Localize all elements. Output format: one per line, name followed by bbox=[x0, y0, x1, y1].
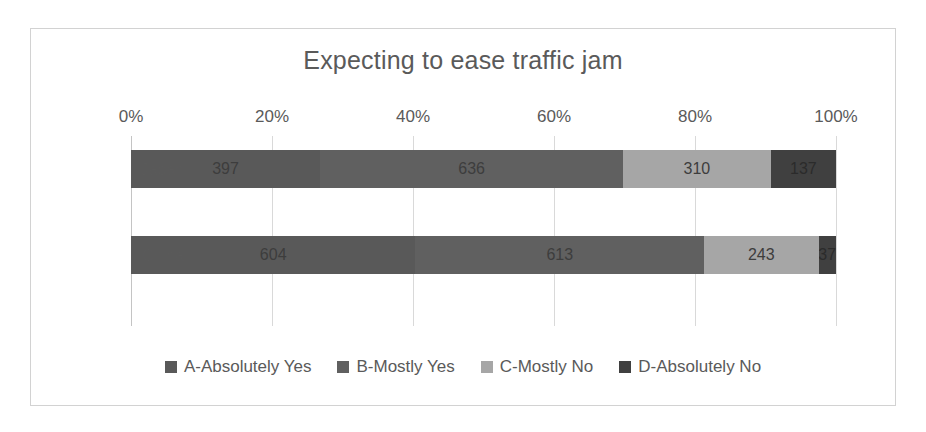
legend-swatch-icon bbox=[165, 361, 177, 373]
chart-frame: Expecting to ease traffic jam 0%20%40%60… bbox=[30, 28, 896, 406]
x-tick-label: 20% bbox=[255, 107, 289, 127]
category-label-japan: Japan bbox=[140, 161, 184, 179]
bar-segment-value: 243 bbox=[748, 247, 775, 263]
bar-segment-value: 37 bbox=[819, 247, 836, 263]
legend-item[interactable]: C-Mostly No bbox=[481, 357, 594, 377]
bar-segment: 37 bbox=[819, 236, 836, 274]
bar-row: 397636310137 bbox=[131, 150, 836, 188]
bar-segment-value: 310 bbox=[684, 161, 711, 177]
x-tick-label: 40% bbox=[396, 107, 430, 127]
bar-segment-value: 604 bbox=[260, 247, 287, 263]
gridline bbox=[836, 136, 837, 326]
legend-swatch-icon bbox=[619, 361, 631, 373]
legend-swatch-icon bbox=[337, 361, 349, 373]
legend-item[interactable]: A-Absolutely Yes bbox=[165, 357, 312, 377]
legend-label: B-Mostly Yes bbox=[356, 357, 454, 377]
chart-title: Expecting to ease traffic jam bbox=[31, 46, 895, 75]
x-tick-label: 0% bbox=[119, 107, 144, 127]
chart-legend: A-Absolutely YesB-Mostly YesC-Mostly NoD… bbox=[31, 357, 895, 377]
bar-segment: 137 bbox=[771, 150, 836, 188]
x-tick-label: 60% bbox=[537, 107, 571, 127]
bar-segment: 310 bbox=[623, 150, 771, 188]
legend-swatch-icon bbox=[481, 361, 493, 373]
bar-segment-value: 397 bbox=[212, 161, 239, 177]
legend-label: C-Mostly No bbox=[500, 357, 594, 377]
legend-item[interactable]: D-Absolutely No bbox=[619, 357, 761, 377]
x-tick-label: 100% bbox=[814, 107, 857, 127]
legend-label: D-Absolutely No bbox=[638, 357, 761, 377]
legend-item[interactable]: B-Mostly Yes bbox=[337, 357, 454, 377]
bar-segment-value: 613 bbox=[546, 247, 573, 263]
bar-segment-value: 636 bbox=[458, 161, 485, 177]
bar-segment-value: 137 bbox=[790, 161, 817, 177]
bar-segment: 613 bbox=[415, 236, 704, 274]
category-label-china: China bbox=[142, 247, 184, 265]
x-tick-label: 80% bbox=[678, 107, 712, 127]
bar-segment: 636 bbox=[320, 150, 623, 188]
x-axis-tick-labels: 0%20%40%60%80%100% bbox=[131, 107, 836, 131]
legend-label: A-Absolutely Yes bbox=[184, 357, 312, 377]
bar-segment: 243 bbox=[704, 236, 818, 274]
bar-row: 60461324337 bbox=[131, 236, 836, 274]
plot-area: 39763631013760461324337 bbox=[131, 136, 836, 326]
